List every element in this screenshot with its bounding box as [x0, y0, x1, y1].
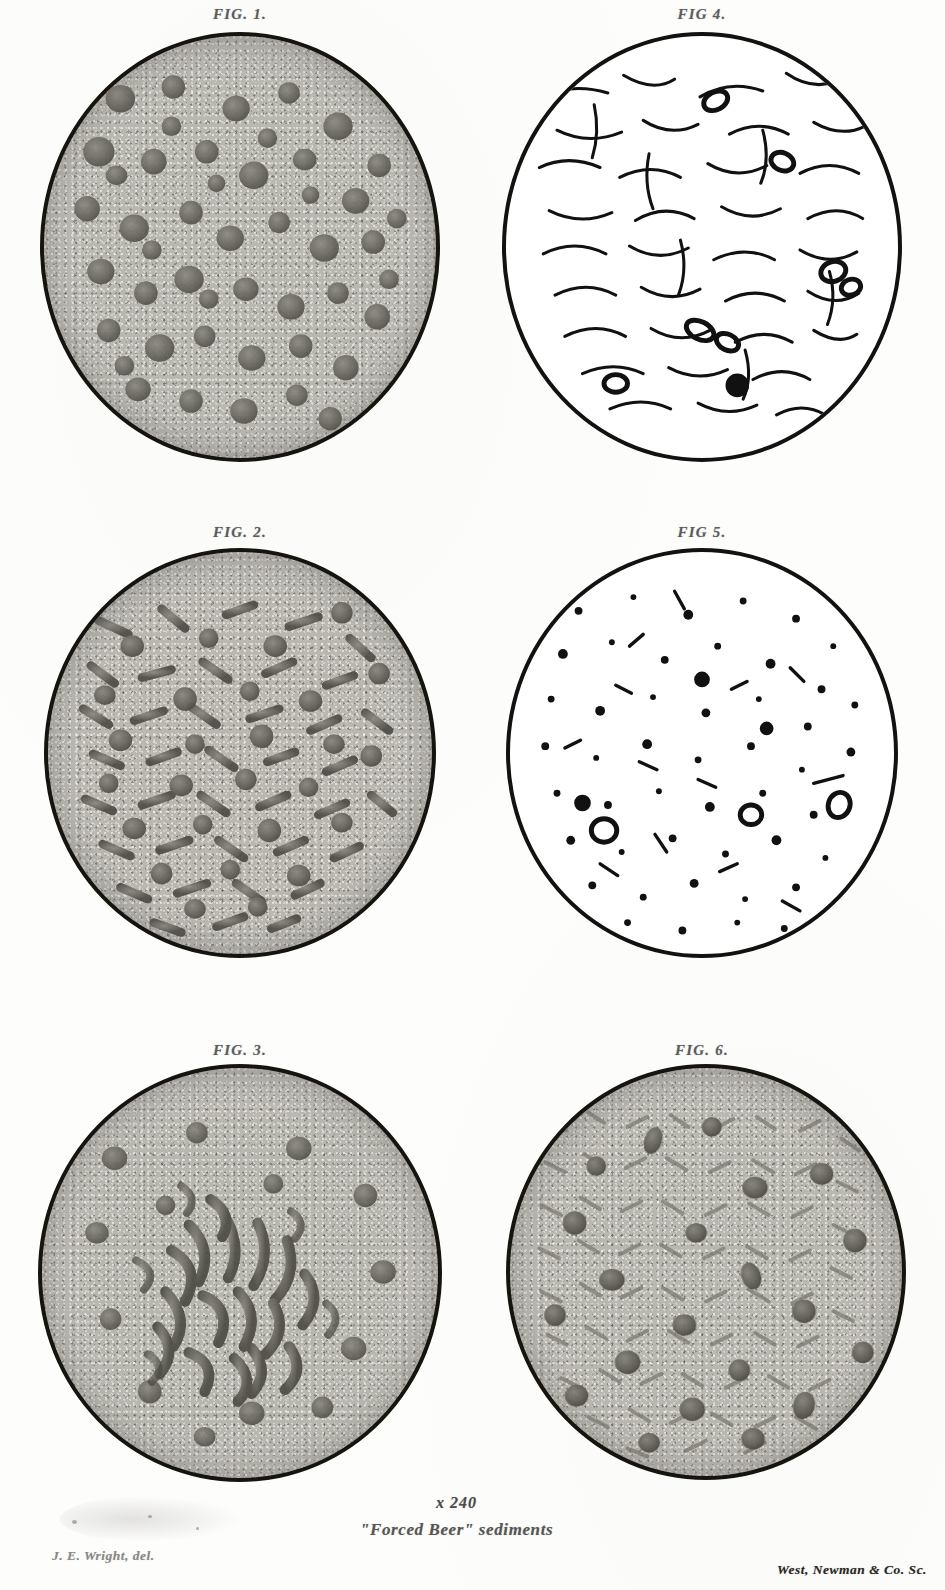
figure-4-bacilli — [506, 36, 898, 458]
plate-title-caption: "Forced Beer" sediments — [360, 1520, 553, 1540]
lithographic-plate: FIG. 1. — [0, 0, 945, 1590]
paper-speck — [72, 1520, 77, 1524]
figure-4-label: FIG 4. — [492, 6, 912, 23]
figure-6-field — [506, 1064, 906, 1480]
figure-5-field — [506, 548, 898, 958]
paper-smudge — [60, 1496, 240, 1542]
figure-3-field — [38, 1064, 442, 1482]
magnification-caption: x 240 — [436, 1494, 477, 1512]
figure-1-cells — [44, 36, 436, 458]
paper-speck — [148, 1515, 152, 1518]
figure-6: FIG. 6. — [492, 1042, 912, 1494]
figure-2-label: FIG. 2. — [30, 524, 450, 541]
figure-4: FIG 4. — [492, 6, 912, 476]
figure-6-label: FIG. 6. — [492, 1042, 912, 1059]
printer-credit: West, Newman & Co. Sc. — [777, 1562, 927, 1578]
figure-4-field — [502, 32, 902, 462]
figure-3: FIG. 3. — [30, 1042, 450, 1494]
figure-6-cells — [510, 1068, 902, 1476]
figure-5-particles — [510, 552, 894, 954]
figure-5-label: FIG 5. — [492, 524, 912, 541]
figure-1-field — [40, 32, 440, 462]
figure-1: FIG. 1. — [30, 6, 450, 476]
figure-3-clump — [42, 1068, 438, 1478]
figure-2: FIG. 2. — [30, 524, 450, 972]
figure-3-label: FIG. 3. — [30, 1042, 450, 1059]
figure-2-field — [44, 548, 436, 958]
figure-1-label: FIG. 1. — [30, 6, 450, 23]
figure-2-cells — [48, 552, 432, 954]
artist-credit: J. E. Wright, del. — [52, 1548, 155, 1564]
figure-5: FIG 5. — [492, 524, 912, 972]
paper-speck — [196, 1527, 199, 1530]
